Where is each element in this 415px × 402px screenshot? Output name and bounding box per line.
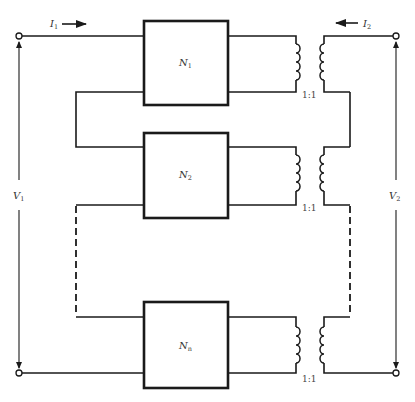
turns-ratio: 1:1	[302, 203, 316, 213]
primary-top-lead	[228, 36, 296, 44]
secondary-bottom-lead	[324, 363, 393, 373]
transformer-1: 1:1	[228, 36, 396, 100]
port1-bottom-terminal	[16, 370, 22, 376]
network-nn: Nn	[144, 302, 228, 388]
n1-n2-left-link	[76, 92, 144, 147]
v1-label: V1	[13, 190, 24, 203]
circuit-diagram: V1 I1 N1 N2 Nn 1:1	[0, 0, 415, 402]
secondary-bottom-lead	[324, 191, 350, 205]
i2-label: I2	[362, 18, 371, 31]
port2-bottom-terminal	[393, 370, 399, 376]
secondary-bottom-lead	[324, 80, 350, 92]
port2: V2 I2	[336, 18, 400, 376]
primary-top-lead	[228, 147, 296, 155]
secondary-coil-icon	[320, 327, 324, 363]
transformer-2: 1:1	[228, 147, 350, 213]
port1: V1 I1	[13, 18, 144, 376]
primary-coil-icon	[296, 155, 300, 191]
secondary-top-lead	[324, 147, 350, 155]
i1-label: I1	[49, 18, 58, 31]
primary-top-lead	[228, 317, 296, 327]
primary-coil-icon	[296, 44, 300, 80]
primary-bottom-lead	[228, 191, 296, 205]
secondary-top-lead	[324, 317, 350, 327]
primary-bottom-lead	[228, 80, 296, 92]
primary-bottom-lead	[228, 363, 296, 373]
turns-ratio: 1:1	[302, 374, 316, 384]
network-n2: N2	[144, 133, 228, 218]
turns-ratio: 1:1	[302, 90, 316, 100]
network-n1: N1	[144, 21, 228, 105]
port1-top-terminal	[16, 33, 22, 39]
secondary-coil-icon	[320, 44, 324, 80]
transformer-n: 1:1	[228, 317, 393, 384]
secondary-top-lead	[324, 36, 396, 44]
v2-label: V2	[389, 190, 400, 203]
secondary-coil-icon	[320, 155, 324, 191]
port2-top-terminal	[393, 33, 399, 39]
left-series-connections	[76, 92, 144, 317]
primary-coil-icon	[296, 327, 300, 363]
